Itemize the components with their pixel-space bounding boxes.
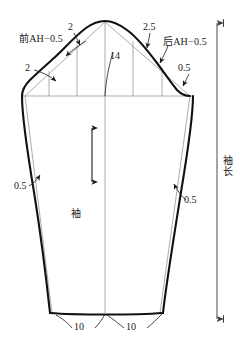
cap-back-low-ease-label: 0.5 <box>178 63 191 73</box>
front-underarm-seam <box>22 96 50 313</box>
pattern-outline <box>22 21 193 315</box>
front-armhole-label: 前AH−0.5 <box>19 34 63 44</box>
pattern-drawing-canvas <box>0 0 240 343</box>
grain-label: 袖 <box>71 209 81 219</box>
leader-hem-right-inner <box>107 315 124 328</box>
sleeve-hem-line <box>50 313 163 315</box>
hem-left-label: 10 <box>74 322 84 332</box>
leader-lines <box>29 33 189 328</box>
cap-front-low-ease-label: 2 <box>25 63 30 73</box>
cap-height-label: 14 <box>110 51 120 61</box>
sleeve-pattern-diagram: 前AH−0.5 后AH−0.5 2 2 2.5 0.5 14 0.5 0.5 袖… <box>0 0 240 343</box>
cap-front-ease-label: 2 <box>68 22 73 32</box>
hem-right-label: 10 <box>126 322 136 332</box>
leader-back-armhole-label <box>160 46 168 63</box>
front-underarm-guide <box>25 96 52 313</box>
leader-back-low-ease <box>183 74 189 86</box>
back-armhole-label: 后AH−0.5 <box>163 37 207 47</box>
cap-back-ease-label: 2.5 <box>143 22 156 32</box>
leader-hem-left-inner <box>95 314 105 328</box>
leader-hem-right <box>147 314 162 328</box>
right-seam-offset-label: 0.5 <box>184 195 197 205</box>
leader-back-upper-ease <box>147 33 150 48</box>
construction-lines <box>22 22 193 313</box>
left-seam-offset-label: 0.5 <box>14 181 27 191</box>
sleeve-length-label: 袖长 <box>221 155 231 177</box>
leader-hem-left <box>56 315 72 328</box>
